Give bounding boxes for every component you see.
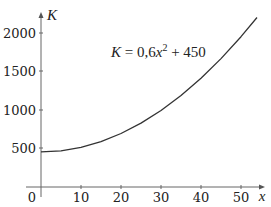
x-tick-label-40: 40	[193, 190, 210, 205]
formula-mid: = 0,6	[121, 44, 156, 60]
y-tick-label-500: 500	[11, 141, 36, 156]
y-axis-arrow-icon	[39, 12, 44, 18]
x-tick-label-10: 10	[73, 190, 90, 205]
y-tick-label-1000: 1000	[3, 103, 36, 118]
y-tick-label-1500: 1500	[3, 64, 36, 79]
chart: 2000 1500 1000 500 0 10 20 30 40 50 x K …	[0, 0, 271, 207]
formula-annotation: K = 0,6x2 + 450	[110, 42, 206, 60]
y-tick-label-2000: 2000	[3, 26, 36, 41]
origin-label: 0	[28, 190, 36, 205]
curve-k	[41, 18, 257, 152]
x-tick-label-20: 20	[113, 190, 130, 205]
x-axis-label: x	[258, 188, 266, 204]
formula-rhs: + 450	[167, 44, 205, 60]
y-axis-label: K	[46, 7, 58, 23]
x-tick-label-30: 30	[153, 190, 170, 205]
x-tick-label-50: 50	[233, 190, 250, 205]
